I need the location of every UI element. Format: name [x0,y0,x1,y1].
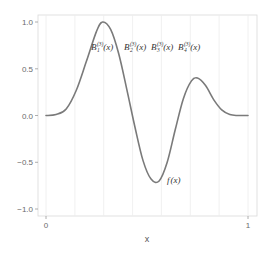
x-axis-title: x [145,234,150,244]
x-axis [46,216,248,219]
f-label: f(x) [167,175,181,185]
y-axis [35,22,38,209]
y-tick-label: 0.5 [22,65,34,74]
x-tick-label: 1 [246,221,251,230]
y-tick-label: 1.0 [22,18,34,27]
chart: 1.0 0.5 0.0 −0.5 −1.0 0 1 x B(3)1(x) B(3… [0,0,270,255]
y-tick-label: −1.0 [17,205,33,214]
plot-frame [38,15,257,216]
footer-strip [0,248,270,255]
y-tick-label: 0.0 [22,112,34,121]
y-tick-label: −0.5 [17,158,33,167]
x-tick-label: 0 [44,221,49,230]
